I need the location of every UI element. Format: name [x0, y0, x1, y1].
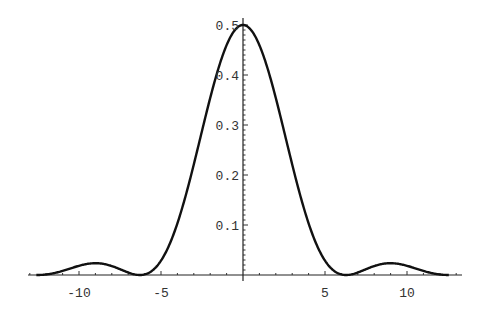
y-tick-label: 0.5 — [216, 19, 239, 34]
x-tick-label: -5 — [153, 286, 169, 301]
y-tick-label: 0.2 — [216, 169, 239, 184]
axes — [28, 18, 462, 281]
plot: -10-55100.10.20.30.40.5 — [0, 0, 483, 313]
x-tick-label: 10 — [399, 286, 415, 301]
y-tick-label: 0.4 — [216, 69, 240, 84]
tick-labels: -10-55100.10.20.30.40.5 — [67, 19, 415, 301]
x-tick-label: 5 — [321, 286, 329, 301]
y-tick-label: 0.1 — [216, 219, 240, 234]
y-tick-label: 0.3 — [216, 119, 239, 134]
x-tick-label: -10 — [67, 286, 90, 301]
